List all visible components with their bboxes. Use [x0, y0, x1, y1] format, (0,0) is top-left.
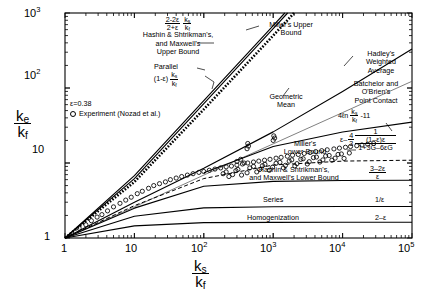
annotation-geometric-mean: Geometric Mean: [256, 93, 316, 110]
ml-formula-big: 1 (1–ε)ε 1+3G–6εG: [355, 128, 396, 152]
hs-upper-formula-frac2: ks kf: [183, 16, 191, 31]
annotation-series: Series: [263, 196, 283, 204]
hs-lower-formula-frac: 3–2ε ε: [369, 165, 386, 180]
annotation-millers-lower-formula: ε– 4 3 1 (1–ε)ε 1+3G–6εG: [340, 128, 396, 152]
hs-upper-line3: Upper Bound: [128, 48, 228, 56]
ml-formula-eps: ε–: [340, 136, 347, 144]
homogenization-label: Homogenization: [247, 213, 299, 222]
geometric-mean-line2: Mean: [256, 101, 316, 109]
hs-lower-line2: and Maxwell's Lower Bound: [224, 174, 364, 182]
annotation-parallel: Parallel (1-ε) ks kf: [133, 63, 199, 87]
annotation-millers-upper: Miller's Upper Bound: [260, 21, 322, 38]
annotation-homogenization: Homogenization: [247, 214, 299, 222]
legend-label-experiment: Experiment (Nozad et al.): [79, 109, 161, 118]
hadley-line3: Average: [354, 67, 408, 75]
annotation-homogenization-formula: 2–ε: [375, 214, 386, 222]
annotation-hs-upper: 2-2ε 2+ε ks kf Hashin & Shtrikman's, and…: [128, 16, 228, 57]
annotation-hs-lower: Hashin & Shtrikman's, and Maxwell's Lowe…: [224, 166, 364, 183]
ml-formula-43: 4 3: [348, 132, 354, 147]
millers-upper-line2: Bound: [260, 29, 322, 37]
annotation-batchelor-formula: 4ℓn ks kf -11: [338, 108, 370, 123]
millers-lower-line2: Lower Bound: [272, 148, 338, 156]
chart-figure: 103 102 10 1 1 10 102 103 104 105 ke kf …: [0, 0, 431, 302]
series-label: Series: [263, 195, 283, 204]
annotation-hadley: Hadley's Weighted Average: [354, 50, 408, 75]
parallel-formula-frac: ks kf: [170, 71, 178, 86]
legend-entry-experiment: Experiment (Nozad et al.): [70, 109, 161, 119]
open-circle-marker: [70, 111, 76, 117]
porosity-label: ε=0.38: [70, 99, 161, 109]
batchelor-formula-frac: ks kf: [350, 108, 358, 123]
annotation-hs-lower-formula: 3–2ε ε: [369, 165, 386, 180]
parallel-title: Parallel: [133, 63, 199, 71]
hs-upper-formula-frac1: 2-2ε 2+ε: [165, 16, 181, 31]
annotation-batchelor: Batchelor and O'Brien's Point Contact: [340, 80, 412, 105]
annotation-millers-lower: Miller's Lower Bound: [272, 140, 338, 157]
legend-box: ε=0.38 Experiment (Nozad et al.): [70, 99, 161, 118]
batchelor-line3: Point Contact: [340, 97, 412, 105]
annotation-series-formula: 1/ε: [375, 196, 384, 204]
parallel-prefix: (1-ε): [154, 75, 168, 83]
batchelor-formula-prefix: 4ℓn: [338, 112, 348, 120]
batchelor-formula-suffix: -11: [360, 112, 370, 120]
